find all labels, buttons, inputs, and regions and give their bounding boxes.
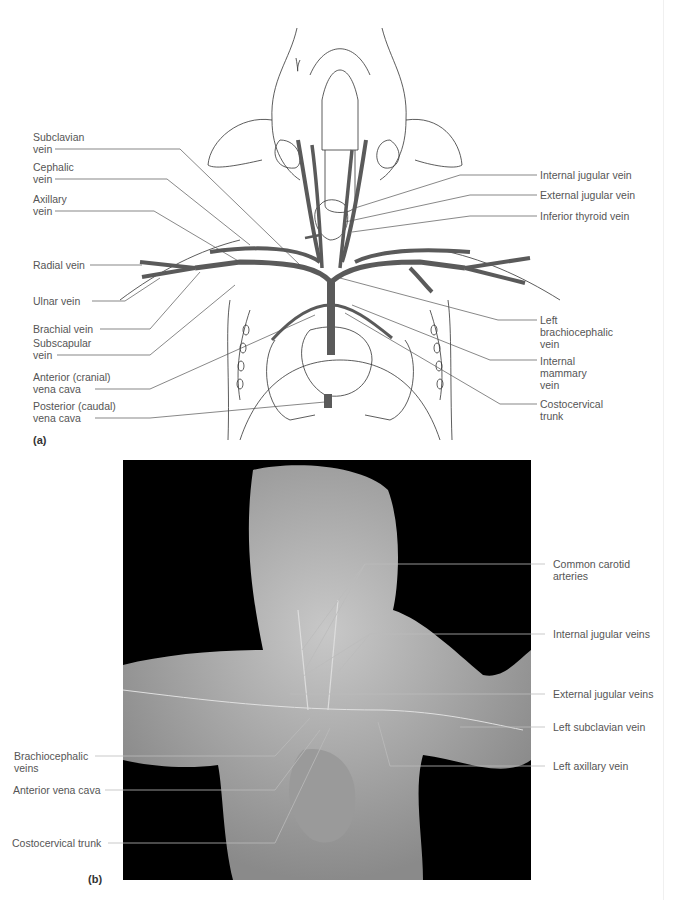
label-posterior-vena-cava: Posterior (caudal)vena cava xyxy=(33,400,116,424)
label-ulnar-vein: Ulnar vein xyxy=(33,295,80,307)
label-radial-vein: Radial vein xyxy=(33,259,85,271)
label-cephalic-vein: Cephalicvein xyxy=(33,161,74,185)
label-left-subclavian-vein: Left subclavian vein xyxy=(553,721,645,733)
label-subclavian-vein: Subclavianvein xyxy=(33,131,84,155)
label-external-jugular-vein: External jugular vein xyxy=(540,189,635,201)
label-internal-jugular-vein: Internal jugular vein xyxy=(540,169,632,181)
panel-a-letter: (a) xyxy=(33,434,46,446)
label-internal-jugular-veins: Internal jugular veins xyxy=(553,628,650,640)
label-inferior-thyroid-vein: Inferior thyroid vein xyxy=(540,210,629,222)
label-subscapular-vein: Subscapularvein xyxy=(33,337,91,361)
panel-b-dissection-photo xyxy=(123,460,531,880)
label-costocervical-trunk-a: Costocervicaltrunk xyxy=(540,398,603,422)
label-costocervical-trunk-b: Costocervical trunk xyxy=(12,837,101,849)
label-axillary-vein: Axillaryvein xyxy=(33,193,67,217)
label-anterior-vena-cava: Anterior (cranial)vena cava xyxy=(33,371,111,395)
panel-b-letter: (b) xyxy=(88,873,102,885)
label-brachiocephalic-veins: Brachiocephalicveins xyxy=(14,750,88,774)
label-internal-mammary-vein: Internalmammaryvein xyxy=(540,355,587,391)
label-left-axillary-vein: Left axillary vein xyxy=(553,760,628,772)
label-brachial-vein: Brachial vein xyxy=(33,323,93,335)
label-common-carotid-arteries: Common carotidarteries xyxy=(553,558,630,582)
label-left-brachiocephalic-vein: Leftbrachiocephalicvein xyxy=(540,314,613,350)
label-anterior-vena-cava-b: Anterior vena cava xyxy=(13,784,101,796)
label-external-jugular-veins: External jugular veins xyxy=(553,688,653,700)
